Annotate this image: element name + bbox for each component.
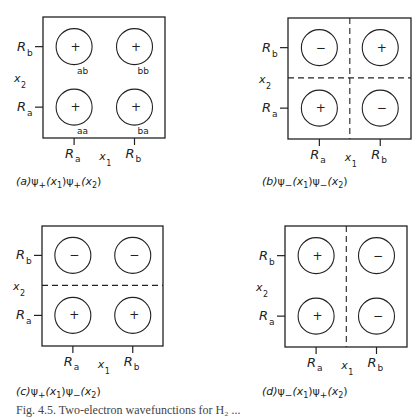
tick-label-x-rb-sub: b [378,363,384,373]
tick-label-y-ra-sub: a [26,316,32,326]
caption-part: − [285,180,293,190]
caption-part: (x [327,175,338,188]
sign-aa: + [316,101,326,115]
y-axis-label: x [12,280,20,293]
tick-label-x-ra-sub: a [74,362,80,372]
caption-part: (x [81,175,92,188]
caption-part: + [38,390,46,400]
tick-label-x-rb-sub: b [381,155,387,165]
caption-part: − [320,180,328,190]
caption-part: ψ [31,385,38,398]
x-axis-label-sub: 1 [105,367,110,376]
tick-label-x-rb: R [124,354,133,369]
caption-part: (d) [262,385,278,398]
tick-label-x-ra-sub: a [317,363,323,373]
sign-ab: + [71,40,81,54]
x-axis-label-sub: 1 [348,368,353,377]
tick-label-x-ra: R [65,146,74,161]
figure-caption: Fig. 4.5. Two-electron wavefunctions for… [16,403,240,417]
sign-aa: + [69,308,79,322]
caption-part: ) [343,175,347,188]
x-axis-label: x [98,150,106,163]
caption-part: (x [292,175,303,188]
caption-part: ψ [66,385,73,398]
panel-b: +−−+RbRax2RaRbx1(b)ψ−(x1)ψ−(x2) [258,18,411,190]
sign-ab: − [316,41,326,55]
region-label-bb: bb [138,66,150,76]
caption-part: ψ [313,175,320,188]
tick-label-y-rb-sub: b [27,48,33,58]
caption-part: ) [96,385,100,398]
sign-ba: + [129,308,139,322]
panel-d: ++−−RbRax2RaRbx1(d)ψ−(x1)ψ+(x2) [255,226,407,400]
panel-caption: (d)ψ−(x1)ψ+(x2) [262,385,348,400]
y-axis-label-sub: 2 [263,290,268,299]
x-axis-label-sub: 1 [106,159,111,168]
y-axis-label-sub: 2 [21,81,26,90]
tick-label-y-rb: R [16,247,25,262]
y-axis-label-sub: 2 [266,82,271,91]
caption-part: ψ [66,175,73,188]
tick-label-y-ra: R [262,100,271,115]
caption-part: (b) [262,175,278,188]
tick-label-y-ra: R [16,307,25,322]
tick-label-x-rb-sub: b [134,362,140,372]
tick-label-y-ra: R [17,99,26,114]
tick-label-x-ra-sub: a [75,154,81,164]
panel-a: +aa+ab+ba+bbRbRax2RaRbx1(a)ψ+(x1)ψ+(x2) [13,17,165,190]
caption-part: + [320,390,328,400]
y-axis-label: x [255,281,263,294]
region-label-aa: aa [77,126,88,136]
sign-ab: + [313,249,323,263]
caption-part: − [73,390,81,400]
panel-caption: (b)ψ−(x1)ψ−(x2) [262,175,348,190]
caption-part: ψ [278,385,285,398]
caption-part: ψ [313,385,320,398]
tick-label-x-rb: R [126,146,135,161]
caption-part: − [285,390,293,400]
tick-label-x-ra: R [307,355,316,370]
tick-label-x-rb: R [368,355,377,370]
sign-bb: + [131,40,141,54]
y-axis-label-sub: 2 [20,289,25,298]
x-axis-label: x [97,358,105,371]
caption-part: ) [343,385,347,398]
tick-label-y-rb-sub: b [269,257,275,267]
caption-part: ) [97,175,101,188]
x-axis-label-sub: 1 [352,160,357,169]
caption-part: (c) [16,385,31,398]
y-axis-label: x [13,72,21,85]
x-axis-label: x [344,151,352,164]
tick-label-y-rb-sub: b [26,256,32,266]
caption-part: (x [80,385,91,398]
caption-part: (x [45,385,56,398]
caption-part: (x [46,175,57,188]
panel-caption: (c)ψ+(x1)ψ−(x2) [16,385,101,400]
tick-label-x-rb-sub: b [136,154,142,164]
region-label-ab: ab [77,66,89,76]
caption-part: ψ [278,175,285,188]
tick-label-y-ra-sub: a [272,109,278,119]
caption-part: (x [327,385,338,398]
sign-bb: − [129,248,139,262]
tick-label-x-ra: R [64,354,73,369]
y-axis-label: x [258,73,266,86]
sign-bb: + [377,41,387,55]
tick-label-y-ra-sub: a [27,108,33,118]
sign-aa: + [71,100,81,114]
caption-part: ψ [31,175,38,188]
tick-label-y-rb-sub: b [272,49,278,59]
panel-c: +−+−RbRax2RaRbx1(c)ψ+(x1)ψ−(x2) [12,226,163,400]
sign-aa: + [313,309,323,323]
x-axis-label: x [340,359,348,372]
tick-label-x-rb: R [371,147,380,162]
tick-label-y-rb: R [17,39,26,54]
sign-ba: − [377,101,387,115]
sign-ba: + [131,100,141,114]
caption-part: (a) [16,175,31,188]
figure: +aa+ab+ba+bbRbRax2RaRbx1(a)ψ+(x1)ψ+(x2)+… [0,0,419,417]
tick-label-y-rb: R [262,40,271,55]
caption-part: + [39,180,47,190]
tick-label-y-ra: R [259,308,268,323]
panel-caption: (a)ψ+(x1)ψ+(x2) [16,175,101,190]
